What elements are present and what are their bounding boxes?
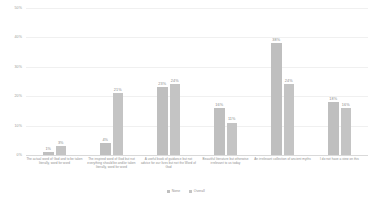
bar-item[interactable]: 16% bbox=[214, 8, 225, 155]
bar-item[interactable]: 23% bbox=[157, 8, 168, 155]
x-axis-category-label: I do not have a view on this bbox=[311, 157, 368, 161]
legend-label: Overall bbox=[194, 189, 205, 193]
bar[interactable] bbox=[271, 43, 282, 155]
legend-item[interactable]: Overall bbox=[189, 189, 205, 193]
bar[interactable] bbox=[100, 143, 111, 155]
plot-area: 0%10%20%30%40%50% 1%3%4%21%23%24%16%11%3… bbox=[26, 8, 368, 155]
bar-value-label: 24% bbox=[171, 79, 179, 83]
bar[interactable] bbox=[284, 84, 295, 155]
bar-item[interactable]: 3% bbox=[56, 8, 67, 155]
bar-item[interactable]: 16% bbox=[341, 8, 352, 155]
x-axis-category-labels: The actual word of God and to be taken l… bbox=[26, 157, 368, 187]
bar-value-label: 4% bbox=[102, 138, 108, 142]
x-axis-category-label: Beautiful literature but otherwise irrel… bbox=[197, 157, 254, 165]
bar-group: 16%11% bbox=[197, 8, 254, 155]
bar[interactable] bbox=[43, 152, 54, 155]
bar-item[interactable]: 24% bbox=[170, 8, 181, 155]
bar[interactable] bbox=[328, 102, 339, 155]
bar-value-label: 3% bbox=[58, 141, 64, 145]
bar[interactable] bbox=[157, 87, 168, 155]
bar-value-label: 24% bbox=[285, 79, 293, 83]
x-axis-category-label: The inspired word of God but not everyth… bbox=[83, 157, 140, 169]
bar[interactable] bbox=[227, 123, 238, 155]
y-axis-tick-label: 20% bbox=[15, 94, 23, 98]
bar[interactable] bbox=[56, 146, 67, 155]
bar-chart: 0%10%20%30%40%50% 1%3%4%21%23%24%16%11%3… bbox=[0, 0, 372, 203]
bar-group: 1%3% bbox=[26, 8, 83, 155]
y-axis-tick-label: 50% bbox=[15, 6, 23, 10]
bar-group: 23%24% bbox=[140, 8, 197, 155]
bar-item[interactable]: 24% bbox=[284, 8, 295, 155]
bar-item[interactable]: 11% bbox=[227, 8, 238, 155]
bar-group: 18%16% bbox=[311, 8, 368, 155]
bar-group: 38%24% bbox=[254, 8, 311, 155]
bar-value-label: 38% bbox=[272, 38, 280, 42]
bars-layer: 1%3%4%21%23%24%16%11%38%24%18%16% bbox=[26, 8, 368, 155]
bar-value-label: 21% bbox=[114, 88, 122, 92]
legend-swatch-icon bbox=[167, 190, 170, 193]
y-axis-tick-label: 0% bbox=[17, 153, 22, 157]
legend-swatch-icon bbox=[189, 190, 192, 193]
bar-item[interactable]: 21% bbox=[113, 8, 124, 155]
bar-value-label: 18% bbox=[329, 97, 337, 101]
bar-group: 4%21% bbox=[83, 8, 140, 155]
bar[interactable] bbox=[170, 84, 181, 155]
x-axis-category-label: An irrelevant collection of ancient myth… bbox=[254, 157, 311, 161]
legend-label: None bbox=[172, 189, 180, 193]
legend-item[interactable]: None bbox=[167, 189, 180, 193]
gridline bbox=[26, 155, 368, 156]
bar[interactable] bbox=[341, 108, 352, 155]
x-axis-category-label: A useful book of guidance but not advice… bbox=[140, 157, 197, 169]
y-axis-tick-label: 30% bbox=[15, 65, 23, 69]
bar-value-label: 23% bbox=[158, 82, 166, 86]
bar-item[interactable]: 38% bbox=[271, 8, 282, 155]
bar-value-label: 1% bbox=[45, 147, 51, 151]
bar-value-label: 16% bbox=[342, 103, 350, 107]
legend: NoneOverall bbox=[0, 189, 372, 193]
y-axis-tick-label: 40% bbox=[15, 35, 23, 39]
x-axis-category-label: The actual word of God and to be taken l… bbox=[26, 157, 83, 165]
bar[interactable] bbox=[113, 93, 124, 155]
bar-item[interactable]: 4% bbox=[100, 8, 111, 155]
bar-item[interactable]: 18% bbox=[328, 8, 339, 155]
y-axis-tick-label: 10% bbox=[15, 124, 23, 128]
bar[interactable] bbox=[214, 108, 225, 155]
bar-value-label: 11% bbox=[228, 117, 236, 121]
bar-item[interactable]: 1% bbox=[43, 8, 54, 155]
bar-value-label: 16% bbox=[215, 103, 223, 107]
